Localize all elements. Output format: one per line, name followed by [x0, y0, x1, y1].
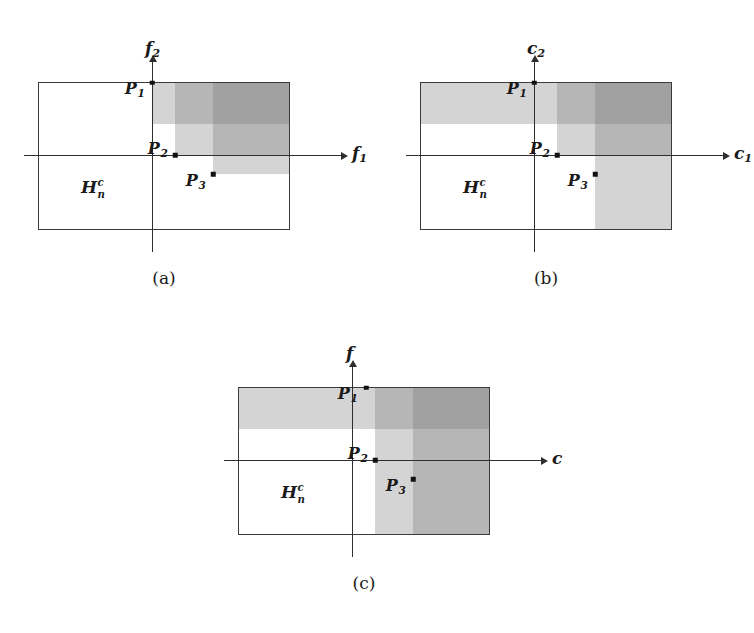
- panel-c-label-p2-text: P: [348, 444, 360, 463]
- panel-a-label-p2: P2: [148, 141, 168, 159]
- panel-a-point-p3: [211, 172, 216, 177]
- panel-a-y-axis-label: f2: [145, 40, 160, 59]
- panel-a-region-label-sup: c: [98, 177, 105, 187]
- panel-a-caption: (a): [152, 268, 175, 288]
- panel-b-point-p3: [593, 172, 598, 177]
- panel-b-label-p3-text: P: [568, 171, 580, 190]
- panel-a-label-p3-text: P: [186, 171, 198, 190]
- panel-b-label-p1-text: P: [507, 79, 519, 98]
- figure-root: f1 f2 P1 P2 P3 Hcn (a): [0, 0, 754, 633]
- panel-a-plot: f1 f2 P1 P2 P3 Hcn (a): [38, 40, 378, 310]
- panel-c-label-p3: P3: [386, 478, 406, 496]
- panel-c-x-axis-arrow: [541, 457, 548, 465]
- panel-a-region-label-text: H: [81, 177, 97, 197]
- panel-b-x-axis-label-sub: 1: [744, 151, 752, 165]
- panel-b-point-p2: [555, 153, 560, 158]
- panel-b-y-axis-label: c2: [527, 40, 545, 59]
- panel-c-region-label-sub: n: [298, 494, 305, 504]
- panel-c-region-label: Hcn: [281, 483, 305, 504]
- panel-b-region-label-text: H: [463, 177, 479, 197]
- panel-b-x-axis: [406, 155, 724, 156]
- panel-b-y-axis-label-sub: 2: [537, 46, 545, 60]
- panel-c-region-label-text: H: [281, 482, 297, 502]
- panel-a-x-axis-label-sub: 1: [359, 151, 367, 165]
- panel-b-caption: (b): [534, 268, 558, 288]
- panel-c-label-p3-text: P: [386, 476, 398, 495]
- panel-b-label-p1: P1: [507, 81, 527, 99]
- panel-c-y-axis-label-text: f: [346, 343, 353, 363]
- panel-a-label-p2-text: P: [148, 139, 160, 158]
- panel-b-region-label-sup: c: [480, 177, 487, 187]
- panel-a-region-label-sub: n: [98, 189, 105, 199]
- panel-b-label-p3: P3: [568, 173, 588, 191]
- panel-a-label-p1-sub: 1: [138, 87, 146, 99]
- panel-b-x-axis-arrow: [723, 152, 730, 160]
- panel-c-label-p1-sub: 1: [351, 392, 359, 404]
- panel-b-x-axis-label-text: c: [734, 143, 744, 163]
- panel-c-point-p1: [364, 385, 369, 390]
- panel-c-label-p2-sub: 2: [361, 452, 369, 464]
- panel-b-label-p2: P2: [530, 141, 550, 159]
- panel-b-point-p1: [532, 80, 537, 85]
- panel-c: c f P1 P2 P3 Hcn (c): [238, 345, 578, 625]
- panel-a-x-axis-label: f1: [352, 145, 367, 164]
- panel-c-point-p2: [373, 458, 378, 463]
- panel-a-region-label: Hcn: [81, 178, 105, 199]
- panel-b-label-p3-sub: 3: [581, 179, 589, 191]
- panel-b-region-label: Hcn: [463, 178, 487, 199]
- panel-c-plot: c f P1 P2 P3 Hcn (c): [238, 345, 578, 625]
- panel-a-label-p3: P3: [186, 173, 206, 191]
- panel-c-region-label-sup: c: [298, 482, 305, 492]
- panel-c-x-axis: [224, 460, 542, 461]
- panel-a-region-label-stack: cn: [98, 178, 105, 199]
- panel-c-y-axis-label: f: [346, 345, 353, 364]
- panel-c-x-axis-label: c: [552, 450, 562, 469]
- panel-c-label-p3-sub: 3: [399, 484, 407, 496]
- panel-c-label-p1-text: P: [338, 384, 350, 403]
- panel-a-point-p1: [150, 80, 155, 85]
- panel-c-region-label-stack: cn: [298, 483, 305, 504]
- panel-b-region-label-sub: n: [480, 189, 487, 199]
- panel-a-point-p2: [173, 153, 178, 158]
- panel-b-label-p2-text: P: [530, 139, 542, 158]
- panel-c-caption: (c): [353, 573, 376, 593]
- panel-b-x-axis-label: c1: [734, 145, 752, 164]
- panel-a-label-p2-sub: 2: [161, 147, 169, 159]
- panel-a-label-p1-text: P: [125, 79, 137, 98]
- panel-a-region-p3: [213, 83, 289, 174]
- panel-b-region-label-stack: cn: [480, 178, 487, 199]
- panel-a-label-p1: P1: [125, 81, 145, 99]
- panel-a-x-axis-arrow: [341, 152, 348, 160]
- panel-a-y-axis-label-sub: 2: [152, 46, 160, 60]
- panel-c-point-p3: [411, 477, 416, 482]
- panel-b: c1 c2 P1 P2 P3 Hcn (b): [420, 40, 754, 310]
- panel-a-x-axis: [24, 155, 342, 156]
- panel-a: f1 f2 P1 P2 P3 Hcn (a): [38, 40, 378, 310]
- panel-b-plot: c1 c2 P1 P2 P3 Hcn (b): [420, 40, 754, 310]
- panel-a-label-p3-sub: 3: [199, 179, 207, 191]
- panel-c-label-p1: P1: [338, 386, 358, 404]
- panel-b-y-axis-label-text: c: [527, 38, 537, 58]
- panel-b-label-p1-sub: 1: [520, 87, 528, 99]
- panel-c-label-p2: P2: [348, 446, 368, 464]
- panel-b-label-p2-sub: 2: [543, 147, 551, 159]
- panel-c-x-axis-label-text: c: [552, 448, 562, 468]
